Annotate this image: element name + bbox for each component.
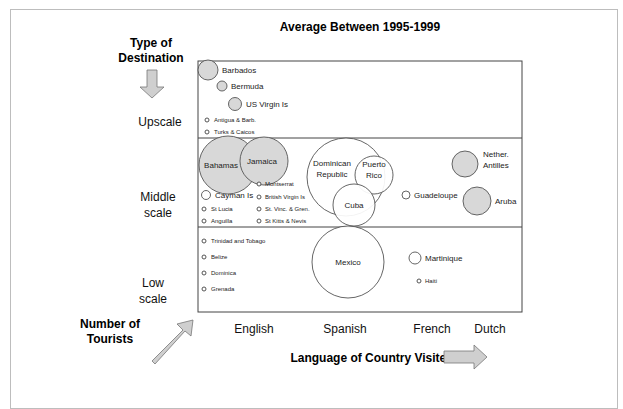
bubble-label-bahamas: Bahamas (204, 161, 238, 170)
bubble-guadeloupe (402, 191, 410, 199)
bubble-label-dominican-republic: Dominican (313, 159, 351, 168)
bubble-st-kitts-nevis (257, 219, 261, 223)
y-tick-label: Low (142, 276, 164, 290)
bubble-label-dominican-republic: Republic (316, 170, 347, 179)
bubble-martinique (409, 252, 421, 264)
bubble-barbados (198, 60, 218, 80)
bubble-label-cuba: Cuba (344, 201, 364, 210)
bubble-label-puerto-rico: Rico (366, 171, 383, 180)
y-tick-label: scale (144, 206, 172, 220)
bubble-label-jamaica: Jamaica (247, 157, 277, 166)
bubble-label-st-kitts-nevis: St Kitts & Nevis (265, 218, 306, 224)
bubble-nether-antilles (452, 151, 478, 177)
x-tick-label: French (413, 322, 450, 336)
bubble-cayman-is (202, 191, 211, 200)
bubble-belize (202, 255, 206, 259)
y-axis-title-line-1: Type of (130, 36, 173, 50)
y-axis-title-line-2: Destination (118, 51, 183, 65)
down-arrow-icon (140, 70, 164, 98)
right-arrow-icon (444, 345, 487, 369)
bubble-aruba (463, 187, 491, 215)
bubble-label-nether-antilles: Antilles (483, 161, 509, 170)
bubble-label-belize: Belize (211, 254, 228, 260)
bubble-trinidad-and-tobago (202, 239, 206, 243)
diagonal-arrow-icon (152, 320, 193, 364)
bubble-label-trinidad-and-tobago: Trinidad and Tobago (211, 238, 266, 244)
bubble-label-antigua-barb: Antigua & Barb. (214, 117, 256, 123)
bubble-label-guadeloupe: Guadeloupe (414, 191, 458, 200)
x-tick-label: Spanish (323, 322, 366, 336)
bubble-antigua-barb (205, 118, 209, 122)
size-legend-title-line-2: Tourists (87, 332, 134, 346)
size-legend-title-line-1: Number of (80, 317, 141, 331)
y-tick-label: Upscale (138, 115, 182, 129)
bubble-label-st-lucia: St Lucia (211, 206, 233, 212)
bubble-label-british-virgin-is: British Virgin Is (265, 194, 305, 200)
bubble-label-us-virgin-is: US Virgin Is (246, 100, 288, 109)
bubble-st-vinc-gren (257, 207, 261, 211)
bubble-label-montserrat: Montserrat (265, 181, 294, 187)
bubble-label-dominica: Dominica (211, 270, 237, 276)
bubble-label-barbados: Barbados (222, 66, 256, 75)
bubble-turks-caicos (205, 130, 209, 134)
bubble-grenada (202, 287, 206, 291)
x-axis-title: Language of Country Visited (290, 351, 453, 365)
bubble-us-virgin-is (229, 98, 242, 111)
bubble-montserrat (257, 182, 261, 186)
bubble-label-haiti: Haiti (425, 278, 437, 284)
bubble-label-aruba: Aruba (495, 197, 517, 206)
bubble-haiti (417, 279, 421, 283)
bubble-dominica (202, 271, 206, 275)
bubble-british-virgin-is (257, 195, 261, 199)
bubble-label-grenada: Grenada (211, 286, 235, 292)
bubble-label-bermuda: Bermuda (231, 82, 264, 91)
bubble-label-anguilla: Anguilla (211, 218, 233, 224)
bubble-st-lucia (202, 207, 206, 211)
bubble-label-nether-antilles: Nether. (483, 150, 509, 159)
bubble-anguilla (202, 219, 206, 223)
x-tick-label: Dutch (474, 322, 505, 336)
y-tick-label: Middle (140, 190, 176, 204)
bubble-label-martinique: Martinique (425, 254, 463, 263)
bubble-bermuda (217, 81, 227, 91)
bubble-label-mexico: Mexico (335, 258, 361, 267)
bubble-label-cayman-is: Cayman Is (215, 191, 253, 200)
bubble-label-puerto-rico: Puerto (362, 160, 386, 169)
bubble-label-st-vinc-gren: St. Vinc. & Gren. (265, 206, 310, 212)
x-tick-label: English (234, 322, 273, 336)
y-tick-label: scale (139, 292, 167, 306)
chart-title: Average Between 1995-1999 (280, 20, 441, 34)
bubble-label-turks-caicos: Turks & Caicos (214, 129, 254, 135)
